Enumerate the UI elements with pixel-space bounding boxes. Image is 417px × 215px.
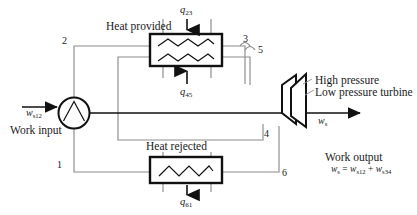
q23-symbol: q23 bbox=[180, 4, 192, 17]
low-pressure-turbine-label: Low pressure turbine bbox=[315, 86, 413, 98]
q45-subscript: 45 bbox=[185, 91, 192, 99]
ws12-symbol: ws12 bbox=[26, 108, 42, 119]
ws12-base: w bbox=[26, 107, 33, 118]
cycle-schematic-svg bbox=[0, 0, 417, 215]
state-point-2: 2 bbox=[62, 36, 67, 47]
state-point-4: 4 bbox=[264, 129, 269, 140]
line-hop-secondary bbox=[245, 47, 255, 51]
heat-rejected-label: Heat rejected bbox=[146, 140, 207, 152]
eq-equals: = bbox=[340, 164, 350, 174]
eq-term2-sub: s34 bbox=[382, 168, 391, 175]
high-pressure-label: High pressure bbox=[315, 74, 379, 86]
work-output-label: Work output bbox=[325, 151, 383, 163]
heat-provided-label: Heat provided bbox=[106, 20, 171, 32]
ws-symbol: ws bbox=[318, 116, 327, 127]
ws12-subscript: s12 bbox=[33, 112, 42, 119]
state-point-5: 5 bbox=[258, 45, 263, 56]
ws-base: w bbox=[318, 115, 325, 126]
state-point-1: 1 bbox=[57, 160, 62, 171]
state-point-6: 6 bbox=[282, 168, 287, 179]
heat-exchanger-upper bbox=[150, 34, 222, 66]
work-output-equation: ws = ws12 + ws34 bbox=[331, 165, 391, 175]
eq-plus: + bbox=[366, 164, 376, 174]
q61-subscript: 61 bbox=[185, 201, 192, 209]
pump-symbol bbox=[59, 98, 90, 129]
pipe-5-to-lp-turbine bbox=[222, 57, 250, 85]
diagram-canvas: Heat provided Heat rejected Work input W… bbox=[0, 0, 417, 215]
pipe-6-to-condenser bbox=[222, 126, 279, 172]
pipe-3-to-hp-turbine bbox=[222, 46, 245, 84]
work-input-label: Work input bbox=[10, 124, 62, 136]
eq-term1-sub: s12 bbox=[356, 168, 365, 175]
state-point-3: 3 bbox=[243, 34, 248, 45]
q23-subscript: 23 bbox=[185, 9, 192, 17]
q61-symbol: q61 bbox=[180, 196, 192, 209]
q45-symbol: q45 bbox=[180, 86, 192, 99]
heat-exchanger-lower bbox=[150, 157, 222, 183]
ws-subscript: s bbox=[325, 120, 328, 127]
